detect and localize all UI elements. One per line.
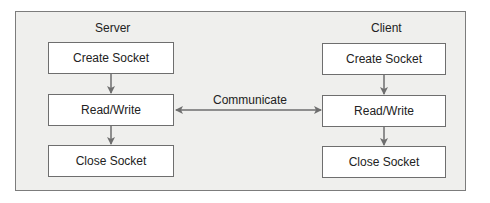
arrows-layer <box>0 0 490 203</box>
